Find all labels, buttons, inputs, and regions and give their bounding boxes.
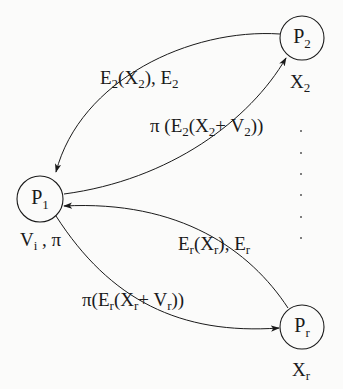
ellipsis-dot: [300, 130, 302, 132]
diagram-canvas: P2 P1 Pr X2 Vi , π Xr E2(X2), E2 π (E2(X…: [0, 0, 343, 389]
ellipsis-dot: [300, 173, 302, 175]
edge-p2-to-p1-label: E2(X2), E2: [100, 68, 179, 87]
node-p1-label: P1: [18, 187, 62, 207]
ellipsis-dot: [300, 152, 302, 154]
node-p2-label: P2: [280, 26, 324, 46]
ellipsis-dot: [300, 237, 302, 239]
ellipsis-dot: [300, 194, 302, 196]
node-p2-attr-label: X2: [290, 72, 310, 91]
edge-p2-to-p1: [56, 34, 280, 172]
node-p1-attr-label: Vi , π: [20, 230, 61, 249]
node-pr-attr-label: Xr: [292, 360, 310, 379]
edge-p1-to-p2-label: π (E2(X2+ V2)): [150, 116, 263, 135]
ellipsis-dot: [300, 216, 302, 218]
edge-pr-to-p1-label: Er(Xr), Er: [178, 234, 250, 253]
node-pr-label: Pr: [280, 315, 324, 335]
edge-p1-to-pr-label: π(Er(Xr+ Vr)): [82, 290, 184, 309]
